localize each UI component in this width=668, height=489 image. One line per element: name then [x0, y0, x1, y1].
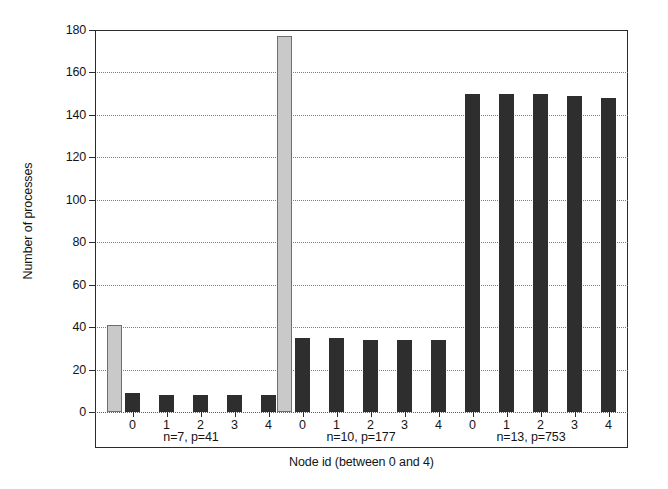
node-bar	[431, 340, 446, 412]
gridline	[95, 157, 628, 158]
x-axis-tick	[303, 412, 304, 417]
node-bar	[397, 340, 412, 412]
y-axis-tick-label: 20	[72, 363, 86, 377]
x-axis-tick	[439, 412, 440, 417]
node-bar	[329, 338, 344, 412]
x-axis-tick	[133, 412, 134, 417]
gridline	[95, 327, 628, 328]
plot-area: 020406080100120140160180	[95, 30, 628, 412]
y-axis-tick-label: 80	[72, 235, 86, 249]
y-axis-tick-label: 140	[66, 108, 86, 122]
node-bar	[601, 98, 616, 412]
group-label: n=7, p=41	[163, 430, 218, 444]
x-axis-tick-label: 3	[231, 418, 238, 432]
node-bar	[533, 94, 548, 412]
x-axis-tick	[235, 412, 236, 417]
gridline	[95, 200, 628, 201]
x-axis-tick	[541, 412, 542, 417]
x-axis-tick-label: 0	[299, 418, 306, 432]
bar-chart-figure: Number of processes 02040608010012014016…	[0, 0, 668, 489]
node-bar	[261, 395, 276, 412]
gridline	[95, 72, 628, 73]
x-axis-tick	[269, 412, 270, 417]
total-bar	[277, 36, 292, 412]
node-bar	[567, 96, 582, 412]
node-bar	[227, 395, 242, 412]
x-axis-tick-label: 3	[401, 418, 408, 432]
x-axis-tick	[371, 412, 372, 417]
node-bar	[193, 395, 208, 412]
x-axis-title: Node id (between 0 and 4)	[95, 455, 628, 469]
x-axis-tick-label: 4	[605, 418, 612, 432]
x-axis-tick	[337, 412, 338, 417]
y-axis-tick-label: 160	[66, 65, 86, 79]
node-bar	[125, 393, 140, 412]
x-axis-tick	[167, 412, 168, 417]
x-axis-tick	[405, 412, 406, 417]
node-bar	[159, 395, 174, 412]
gridline	[95, 370, 628, 371]
y-axis-tick-label: 60	[72, 278, 86, 292]
y-axis-title: Number of processes	[18, 30, 38, 412]
x-axis-tick	[473, 412, 474, 417]
gridline	[95, 242, 628, 243]
gridline	[95, 285, 628, 286]
y-axis-tick-label: 100	[66, 193, 86, 207]
x-axis-tick-label: 0	[129, 418, 136, 432]
group-label: n=10, p=177	[326, 430, 395, 444]
total-bar	[107, 325, 122, 412]
group-label: n=13, p=753	[496, 430, 565, 444]
y-axis-spine	[95, 30, 96, 412]
x-axis-tick-label: 0	[469, 418, 476, 432]
node-bar	[499, 94, 514, 412]
x-axis-tick	[507, 412, 508, 417]
x-axis-tick-label: 4	[435, 418, 442, 432]
gridline	[95, 115, 628, 116]
node-bar	[363, 340, 378, 412]
y-axis-tick-label: 180	[66, 23, 86, 37]
y-axis-tick-label: 40	[72, 320, 86, 334]
node-bar	[465, 94, 480, 412]
node-bar	[295, 338, 310, 412]
x-axis-tick	[609, 412, 610, 417]
x-axis-tick	[201, 412, 202, 417]
x-axis-tick-label: 3	[571, 418, 578, 432]
x-axis-tick	[575, 412, 576, 417]
y-axis-tick-label: 120	[66, 150, 86, 164]
y-axis-tick-label: 0	[79, 405, 86, 419]
x-axis-tick-label: 4	[265, 418, 272, 432]
